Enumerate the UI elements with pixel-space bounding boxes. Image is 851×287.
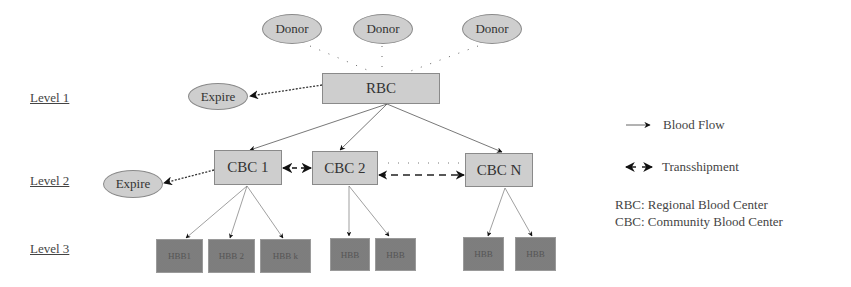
hbb-label: HBB — [341, 250, 360, 260]
hbb-node: HBB k — [260, 239, 311, 273]
legend-cbc-abbreviation: CBC: Community Blood Center — [615, 214, 783, 230]
legend-blood-flow: Blood Flow — [663, 117, 725, 133]
hbb-node: HBB — [330, 238, 370, 271]
level-1-label: Level 1 — [30, 90, 69, 106]
level-3-label: Level 3 — [30, 241, 69, 257]
cbc-label: CBC N — [477, 162, 522, 179]
level-2-label: Level 2 — [30, 173, 69, 189]
connector-lines — [0, 0, 851, 287]
donor-label: Donor — [475, 21, 508, 37]
cbc-label: CBC 2 — [324, 160, 365, 177]
expire-node-level-2: Expire — [103, 170, 163, 198]
hbb-label: HBB — [526, 249, 545, 259]
donor-node: Donor — [262, 14, 322, 44]
cbc-2-node: CBC 2 — [312, 151, 378, 185]
hbb-node: HBB — [463, 237, 504, 271]
hbb-node: HBB 2 — [208, 239, 255, 273]
expire-node-level-1: Expire — [188, 83, 248, 110]
hbb-node: HBB1 — [156, 239, 203, 273]
hbb-label: HBB k — [273, 251, 298, 261]
hbb-label: HBB — [474, 249, 493, 259]
cbc-n-node: CBC N — [465, 153, 533, 187]
legend-transshipment: Transshipment — [662, 159, 739, 175]
donor-node: Donor — [462, 14, 522, 44]
hbb-label: HBB 2 — [219, 251, 244, 261]
expire-label: Expire — [201, 89, 236, 105]
rbc-node: RBC — [322, 73, 440, 104]
hbb-node: HBB — [515, 237, 556, 271]
expire-label: Expire — [116, 176, 151, 192]
donor-label: Donor — [275, 21, 308, 37]
donor-label: Donor — [366, 21, 399, 37]
hbb-node: HBB — [375, 238, 416, 271]
cbc-label: CBC 1 — [227, 159, 268, 176]
hbb-label: HBB1 — [168, 251, 191, 261]
legend-rbc-abbreviation: RBC: Regional Blood Center — [615, 197, 768, 213]
rbc-label: RBC — [366, 80, 396, 97]
cbc-1-node: CBC 1 — [214, 150, 282, 185]
donor-node: Donor — [353, 14, 413, 44]
hbb-label: HBB — [386, 250, 405, 260]
